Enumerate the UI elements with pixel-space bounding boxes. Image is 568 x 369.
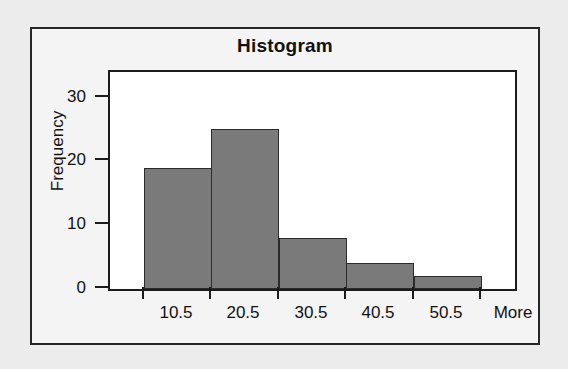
x-tick-label-30-5: 30.5 — [294, 303, 327, 323]
x-tick-mark-0 — [142, 287, 144, 299]
x-tick-label-40-5: 40.5 — [361, 303, 394, 323]
x-tick-mark-3 — [344, 287, 346, 299]
chart-figure-frame: Histogram Frequency 0 10 20 30 10.5 20.5… — [30, 27, 540, 345]
x-tick-mark-2 — [277, 287, 279, 299]
x-tick-mark-4 — [412, 287, 414, 299]
x-tick-label-20-5: 20.5 — [226, 303, 259, 323]
x-tick-label-more: More — [494, 303, 533, 323]
x-tick-label-50-5: 50.5 — [429, 303, 462, 323]
x-tick-mark-5 — [479, 287, 481, 299]
x-axis-ticks: 10.5 20.5 30.5 40.5 50.5 More — [32, 29, 538, 343]
x-tick-mark-1 — [209, 287, 211, 299]
x-tick-label-10-5: 10.5 — [159, 303, 192, 323]
